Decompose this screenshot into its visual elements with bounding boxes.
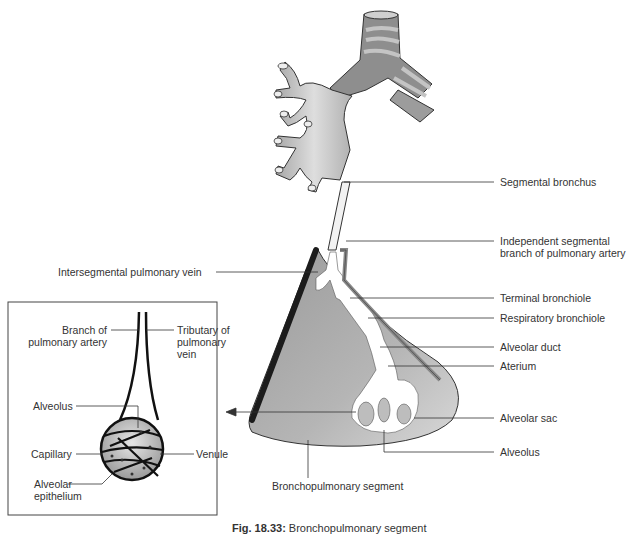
segment-cone xyxy=(249,250,458,446)
caption-number: Fig. 18.33: xyxy=(232,522,286,534)
label-branch-of-pulmonary-artery: Branch of pulmonary artery xyxy=(27,324,107,348)
label-venule: Venule xyxy=(196,448,228,460)
label-segmental-bronchus: Segmental bronchus xyxy=(500,176,596,188)
caption-text: Bronchopulmonary segment xyxy=(289,522,427,534)
label-independent-segmental-branch: Independent segmental branch of pulmonar… xyxy=(500,235,625,259)
label-tributary-of-pulmonary-vein: Tributary of pulmonary vein xyxy=(177,324,230,360)
label-inset-alveolus: Alveolus xyxy=(33,400,73,412)
label-alveolar-sac: Alveolar sac xyxy=(500,412,557,424)
label-capillary: Capillary xyxy=(31,448,72,460)
label-alveolus: Alveolus xyxy=(500,446,540,458)
figure-caption: Fig. 18.33: Bronchopulmonary segment xyxy=(232,522,426,534)
label-alveolar-duct: Alveolar duct xyxy=(500,341,561,353)
label-terminal-bronchiole: Terminal bronchiole xyxy=(500,292,591,304)
label-alveolar-epithelium: Alveolar epithelium xyxy=(34,478,82,502)
label-aterium: Aterium xyxy=(500,360,536,372)
label-respiratory-bronchiole: Respiratory bronchiole xyxy=(500,312,605,324)
label-intersegmental-pulmonary-vein: Intersegmental pulmonary vein xyxy=(58,266,202,278)
label-bronchopulmonary-segment: Bronchopulmonary segment xyxy=(272,480,403,492)
